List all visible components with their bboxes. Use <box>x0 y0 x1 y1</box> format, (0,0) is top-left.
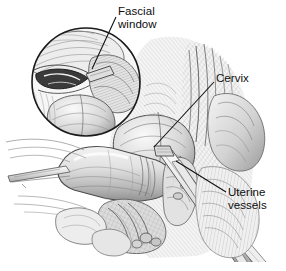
ligated-vessel-stump <box>174 193 183 199</box>
label-cervix: Cervix <box>216 72 249 85</box>
surgical-illustration-figure: Fascial window Cervix Uterine vessels <box>0 0 286 271</box>
left-retractor-instrument <box>8 166 70 188</box>
label-uterine-vessels: Uterine vessels <box>228 186 267 211</box>
label-fascial-window: Fascial window <box>118 5 157 30</box>
illustration-canvas <box>0 0 286 271</box>
